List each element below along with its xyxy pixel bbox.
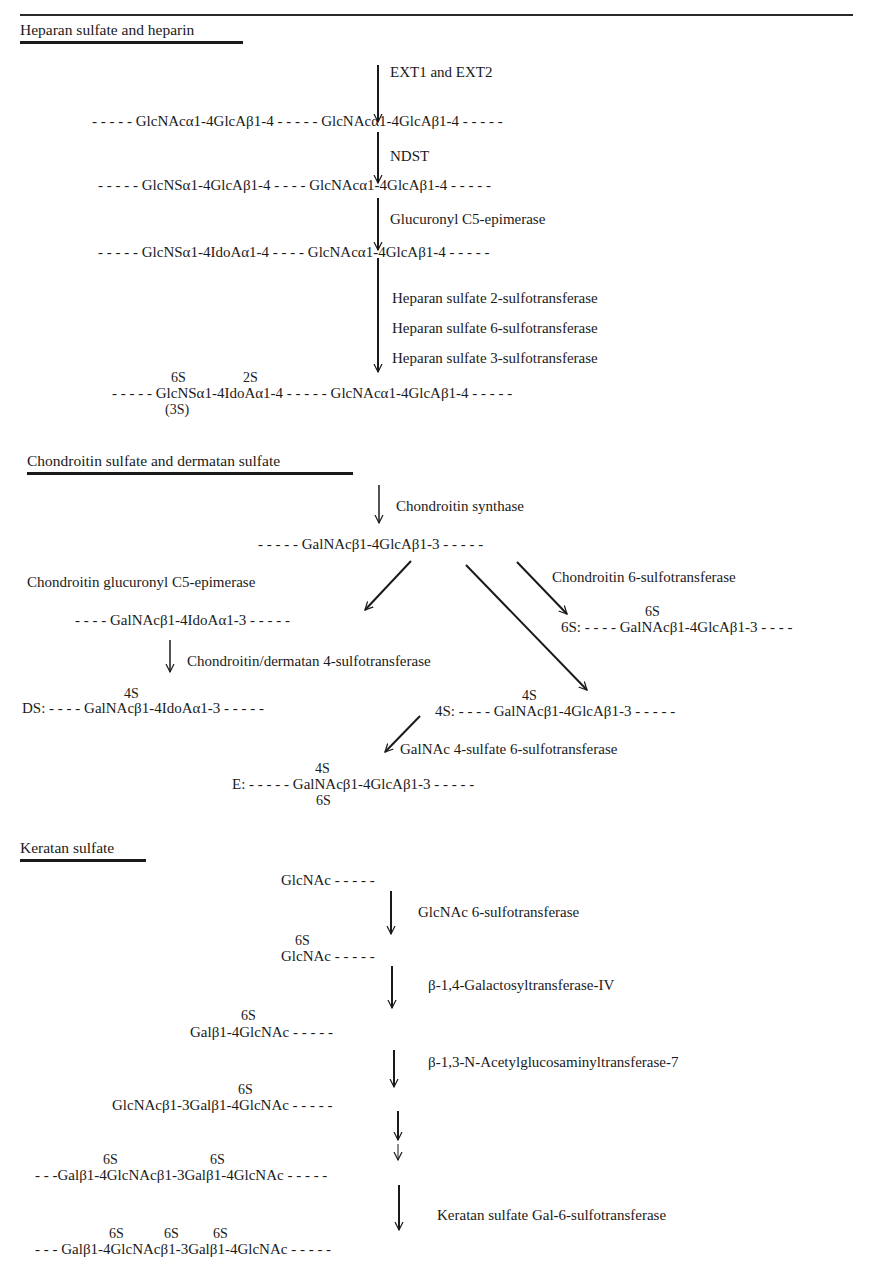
reaction-arrows xyxy=(0,0,873,1264)
arrow-diag-icon xyxy=(466,565,587,690)
arrow-diag-icon xyxy=(385,716,420,752)
arrow-diag-icon xyxy=(365,561,411,610)
arrow-diag-icon xyxy=(517,562,567,614)
